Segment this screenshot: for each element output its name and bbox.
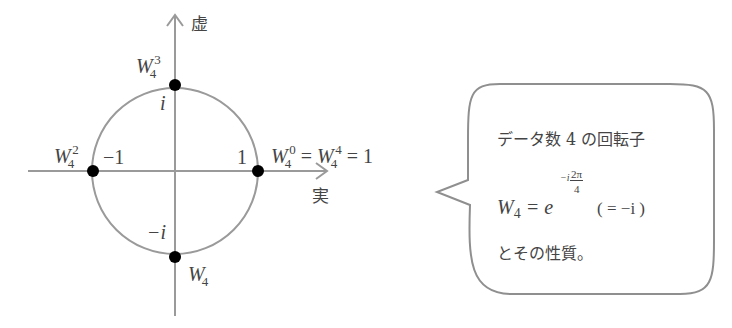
value-minus-i: −i xyxy=(147,222,166,242)
label-w4-zero-equals-w4-fourth: W40 = W44 = 1 xyxy=(271,143,373,170)
label-w4-squared: W42 xyxy=(54,143,79,170)
point-minus-1 xyxy=(87,165,99,177)
bubble-title: データ数 4 の回転子 xyxy=(497,126,645,150)
bubble-formula: W4 = e −i 2π 4 ( = −i ) xyxy=(497,194,645,222)
value-i: i xyxy=(160,93,166,113)
point-1 xyxy=(252,165,264,177)
imag-axis-label: 虚 xyxy=(191,16,208,33)
bubble-footer: とその性質。 xyxy=(497,240,593,264)
value-1: 1 xyxy=(237,147,247,167)
point-i xyxy=(169,79,181,91)
point-minus-i xyxy=(169,251,181,263)
real-axis-label: 実 xyxy=(312,188,329,205)
label-w4: W4 xyxy=(188,264,208,288)
value-minus-1: −1 xyxy=(103,147,124,167)
label-w4-cubed: W43 xyxy=(136,53,161,80)
